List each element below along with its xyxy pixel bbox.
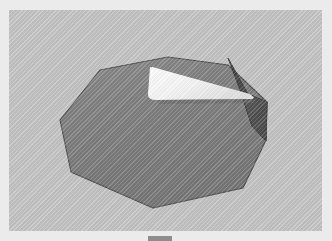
image-canvas [9, 10, 322, 231]
caption-bar-mark [148, 236, 172, 241]
screenshot-stage [0, 0, 332, 241]
rendered-shape-graphic [9, 10, 322, 231]
